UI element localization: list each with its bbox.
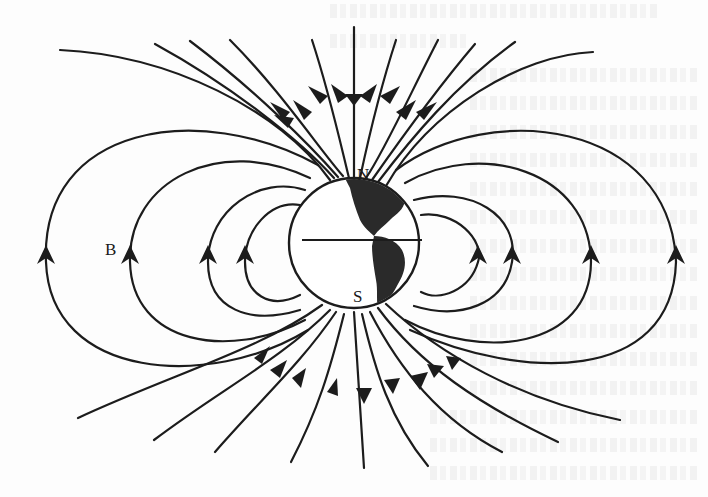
arrow-outward-icon — [292, 368, 306, 388]
arrow-outward-icon — [427, 364, 444, 378]
field-label-b: B — [105, 240, 116, 259]
south-pole-label: S — [353, 287, 362, 306]
arrow-outward-icon — [410, 372, 428, 390]
arrow-down-icon — [331, 84, 348, 103]
north-inflow-lines — [60, 27, 593, 186]
arrow-outward-icon — [327, 378, 338, 396]
arrow-down-icon — [380, 86, 400, 104]
magnetic-field-diagram: N S B — [0, 0, 708, 497]
arrow-down-icon — [308, 86, 328, 104]
right-field-loops — [396, 131, 676, 363]
north-pole-label: N — [357, 165, 369, 184]
arrow-down-icon — [360, 84, 377, 103]
arrow-outward-icon — [446, 356, 461, 370]
page-background: N S B — [0, 0, 708, 497]
arrow-outward-icon — [384, 378, 400, 394]
left-field-loops — [46, 131, 318, 366]
south-outflow-lines — [78, 304, 620, 468]
